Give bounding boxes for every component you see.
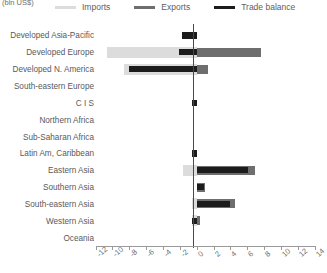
axis-tick-label: -4	[162, 247, 173, 258]
bar-trade-balance	[197, 184, 205, 190]
legend-label: Exports	[161, 2, 190, 12]
axis-tick-label: 2	[213, 249, 222, 259]
chart-row: Latin Am, Caribbean	[0, 145, 327, 162]
chart-row: South-eastern Europe	[0, 78, 327, 95]
category-label: Southern Asia	[43, 183, 94, 192]
category-label: Eastern Asia	[48, 166, 94, 175]
axis-tick-label: 4	[229, 249, 238, 259]
chart-row: Sub-Saharan Africa	[0, 128, 327, 145]
category-label: Western Asia	[46, 216, 94, 225]
bar-exports	[197, 48, 261, 57]
bar-trade-balance	[179, 49, 197, 55]
axis-tick-label: 0	[196, 249, 205, 259]
category-label: Northern Africa	[39, 115, 94, 124]
chart-row: C I S	[0, 94, 327, 111]
unit-label: (bln US$)	[2, 0, 34, 7]
legend-label: Imports	[82, 2, 110, 12]
chart-row: Eastern Asia	[0, 162, 327, 179]
bar-exports	[197, 216, 200, 225]
chart-row: Developed Asia-Pacific	[0, 27, 327, 44]
category-label: South-eastern Asia	[25, 199, 94, 208]
chart-row: South-eastern Asia	[0, 196, 327, 213]
chart-row: Developed N. America	[0, 61, 327, 78]
trade-balance-chart: (bln US$) ImportsExportsTrade balance De…	[0, 0, 327, 273]
bar-trade-balance	[182, 32, 196, 38]
axis-tick-label: -2	[179, 247, 190, 258]
chart-row: Western Asia	[0, 212, 327, 229]
line-swatch-icon	[55, 6, 76, 9]
axis-tick-label: 8	[263, 249, 272, 259]
legend-label: Trade balance	[241, 2, 295, 12]
zero-axis-line	[193, 24, 194, 248]
category-label: Sub-Saharan Africa	[23, 132, 94, 141]
x-axis: -12-10-8-6-4-202468101214	[0, 246, 327, 273]
category-label: C I S	[76, 98, 94, 107]
bar-trade-balance	[129, 66, 196, 72]
chart-legend: ImportsExportsTrade balance	[55, 2, 295, 12]
chart-row: Southern Asia	[0, 179, 327, 196]
legend-item-trade-balance[interactable]: Trade balance	[214, 2, 295, 12]
category-label: South-eastern Europe	[14, 81, 94, 90]
category-label: Latin Am, Caribbean	[20, 149, 94, 158]
bar-imports	[183, 165, 196, 176]
axis-tick-label: 6	[246, 249, 255, 259]
chart-row: Developed Europe	[0, 44, 327, 61]
line-swatch-icon	[214, 6, 235, 9]
bar-trade-balance	[197, 201, 231, 207]
plot-area: Developed Asia-PacificDeveloped EuropeDe…	[0, 27, 327, 246]
line-swatch-icon	[134, 6, 155, 9]
legend-item-exports[interactable]: Exports	[134, 2, 190, 12]
axis-tick-label: -6	[145, 247, 156, 258]
legend-item-imports[interactable]: Imports	[55, 2, 110, 12]
category-label: Oceania	[64, 233, 95, 242]
bar-trade-balance	[197, 167, 248, 173]
axis-tick-label: -8	[128, 247, 139, 258]
chart-row: Northern Africa	[0, 111, 327, 128]
category-label: Developed N. America	[13, 65, 94, 74]
category-label: Developed Asia-Pacific	[10, 31, 94, 40]
category-label: Developed Europe	[26, 48, 94, 57]
chart-row: Oceania	[0, 229, 327, 246]
bar-exports	[197, 65, 209, 74]
